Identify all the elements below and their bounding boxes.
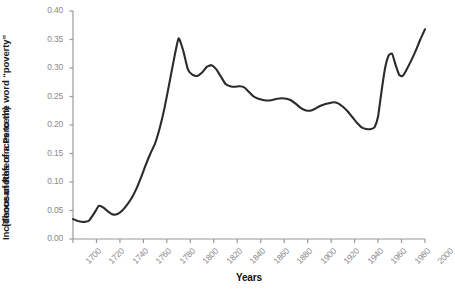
x-axis-tick-marks <box>73 239 425 243</box>
x-axis-title: Years <box>73 272 425 283</box>
data-line-poverty <box>73 29 425 222</box>
